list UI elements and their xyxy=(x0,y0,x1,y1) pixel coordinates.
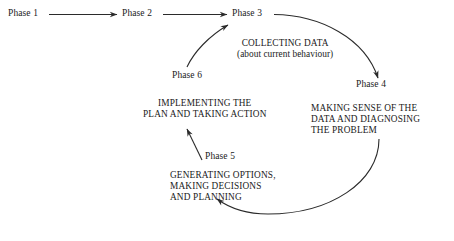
phase-5-description: GENERATING OPTIONS, MAKING DECISIONS AND… xyxy=(170,170,276,203)
phase-4-description-line-2: DATA AND DIAGNOSING xyxy=(311,114,420,125)
phase-4-description-line-1: MAKING SENSE OF THE xyxy=(311,103,420,114)
phase-3-label: Phase 3 xyxy=(232,8,262,19)
phase-5-description-line-3: AND PLANNING xyxy=(170,192,276,203)
phase-5-description-line-2: MAKING DECISIONS xyxy=(170,181,276,192)
phase-4-description: MAKING SENSE OF THE DATA AND DIAGNOSING … xyxy=(311,103,420,136)
phase-6-description-line-1: IMPLEMENTING THE xyxy=(143,98,267,109)
phase-6-label: Phase 6 xyxy=(172,70,202,81)
phase-3-description: COLLECTING DATA (about current behaviour… xyxy=(237,38,333,60)
phase-4-description-line-3: THE PROBLEM xyxy=(311,125,420,136)
phase-1-label: Phase 1 xyxy=(8,8,38,19)
phase-6-description-line-2: PLAN AND TAKING ACTION xyxy=(143,109,267,120)
phase-5-description-line-1: GENERATING OPTIONS, xyxy=(170,170,276,181)
arrow-phase6-phase3 xyxy=(187,25,228,67)
cycle-diagram: Phase 1 Phase 2 Phase 3 Phase 4 Phase 5 … xyxy=(0,0,454,241)
phase-5-label: Phase 5 xyxy=(205,151,235,162)
phase-3-description-line-1: COLLECTING DATA xyxy=(237,38,333,49)
phase-3-description-line-2: (about current behaviour) xyxy=(237,49,333,60)
arrow-phase5-phase6 xyxy=(187,129,202,160)
phase-6-description: IMPLEMENTING THE PLAN AND TAKING ACTION xyxy=(143,98,267,120)
phase-4-label: Phase 4 xyxy=(356,79,386,90)
phase-2-label: Phase 2 xyxy=(122,8,152,19)
